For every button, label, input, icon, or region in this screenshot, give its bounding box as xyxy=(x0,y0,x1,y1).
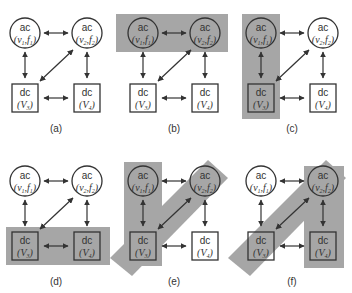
svg-text:(e): (e) xyxy=(168,276,180,287)
coupling-diagram-grid: ac (ν1,f1) ac (ν2,f2) dc (V3) dc (V4) (a… xyxy=(0,0,352,293)
svg-text:(d): (d) xyxy=(50,276,62,287)
svg-text:(f): (f) xyxy=(287,276,296,287)
svg-text:(c): (c) xyxy=(286,123,298,134)
panel-e: (e) xyxy=(110,160,228,287)
panel-b: (b) xyxy=(116,14,228,134)
panel-a: (a) xyxy=(10,18,102,134)
svg-text:(b): (b) xyxy=(168,123,180,134)
panel-f: (f) xyxy=(228,160,346,287)
svg-text:(a): (a) xyxy=(50,123,62,134)
panel-d: (d) xyxy=(6,166,110,287)
panel-c: (c) xyxy=(242,14,338,134)
